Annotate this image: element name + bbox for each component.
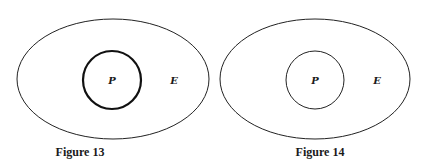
figure-caption: Figure 13	[56, 145, 105, 159]
venn-figures: P E Figure 13 P E Figure 14	[0, 0, 425, 159]
label-p: P	[310, 75, 319, 86]
figure-caption: Figure 14	[296, 145, 345, 159]
figure-14: P E Figure 14	[220, 19, 410, 159]
label-e: E	[372, 75, 381, 86]
figure-13: P E Figure 13	[17, 19, 209, 159]
label-p: P	[107, 75, 116, 86]
label-e: E	[169, 75, 178, 86]
